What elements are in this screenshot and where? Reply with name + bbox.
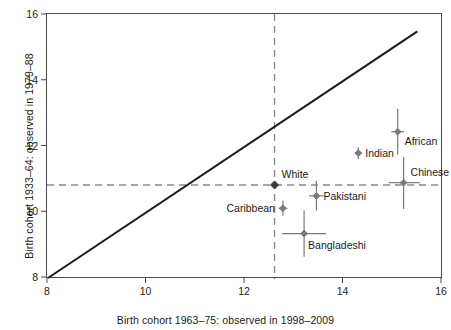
- tick-marks: [0, 0, 451, 330]
- scatter-plot-figure: Birth cohort 1933–64: observed in 1979–8…: [0, 0, 451, 330]
